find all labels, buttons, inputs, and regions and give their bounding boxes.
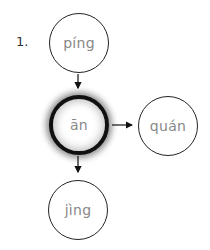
node-ping-label: píng — [63, 35, 95, 51]
node-an-highlighted: ān — [49, 95, 109, 155]
node-an-label: ān — [70, 117, 88, 133]
node-quan-label: quán — [150, 118, 186, 134]
node-ping: píng — [49, 13, 109, 73]
node-jing: jìng — [48, 180, 108, 240]
node-quan: quán — [138, 96, 198, 156]
node-jing-label: jìng — [65, 202, 92, 218]
